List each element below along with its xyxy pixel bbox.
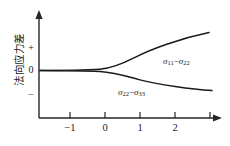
annotation-sigma22-sigma33: σ22−σ33: [118, 87, 145, 97]
y-tick-label-zero: 0: [24, 64, 38, 75]
y-tick-label-minus: −: [24, 89, 38, 100]
x-tick-label-minus1: −1: [60, 122, 80, 133]
y-axis-arrowhead: [35, 10, 42, 19]
x-tick-label-2: 2: [165, 122, 185, 133]
y-tick-label-plus: +: [24, 42, 38, 53]
x-axis-arrowhead: [213, 114, 222, 121]
x-tick-label-0: 0: [95, 122, 115, 133]
sigma-sub-2b: 33: [138, 90, 145, 97]
sigma-sub-1b: 22: [183, 59, 190, 66]
x-tick-label-1: 1: [130, 122, 150, 133]
normal-stress-difference-chart: 法向应力差 + 0 − −1 0 1 2 σ11−σ22 σ22−σ33: [0, 0, 230, 146]
annotation-sigma11-sigma22: σ11−σ22: [163, 56, 190, 66]
